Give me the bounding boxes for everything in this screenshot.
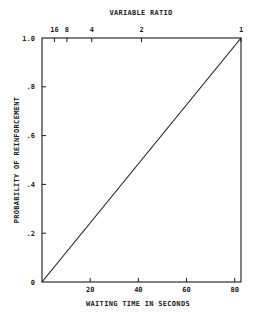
x-tick-label: 40 <box>134 286 142 294</box>
top-axis-ticks: 168421 <box>50 26 243 42</box>
top-tick-label: 1 <box>239 26 243 34</box>
y-tick-label: .2 <box>27 230 35 238</box>
x-tick-label: 80 <box>231 286 239 294</box>
x-tick-label: 60 <box>182 286 190 294</box>
y-axis-title: PROBABILITY OF REINFORCEMENT <box>13 97 21 223</box>
top-tick-label: 16 <box>50 26 58 34</box>
y-tick-label: .4 <box>27 181 35 189</box>
y-tick-label: .6 <box>27 132 35 140</box>
x-axis-ticks: 20406080 <box>86 278 239 294</box>
data-series <box>42 38 241 282</box>
y-tick-label: 1.0 <box>22 35 35 43</box>
x-tick-label: 20 <box>86 286 94 294</box>
top-axis-title: VARIABLE RATIO <box>109 9 172 17</box>
x-axis-title: WAITING TIME IN SECONDS <box>86 300 190 308</box>
top-tick-label: 4 <box>90 26 94 34</box>
series-line <box>42 38 241 282</box>
chart: 0.2.4.6.81.0 20406080 168421 VARIABLE RA… <box>0 0 255 321</box>
top-tick-label: 2 <box>139 26 143 34</box>
y-tick-label: .8 <box>27 83 35 91</box>
top-tick-label: 8 <box>65 26 69 34</box>
y-tick-label: 0 <box>31 279 35 287</box>
